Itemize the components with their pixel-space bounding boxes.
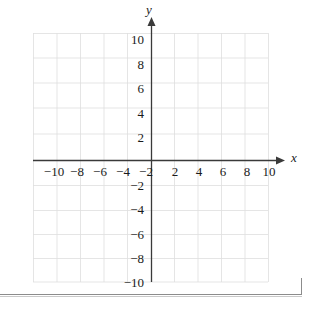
y-axis-arrowhead <box>148 17 156 26</box>
x-axis-label: x <box>291 151 297 164</box>
y-axis <box>148 17 156 282</box>
x-tick-label-4: 4 <box>189 165 209 178</box>
x-tick-label-10: 10 <box>256 165 282 178</box>
y-tick-label--2: −2 <box>104 179 144 192</box>
coordinate-grid-figure: −10 −8 −6 −4 −2 2 4 6 8 10 10 8 6 4 2 −2… <box>0 0 315 311</box>
y-tick-label--10: −10 <box>104 276 144 289</box>
y-tick-label-8: 8 <box>110 58 144 71</box>
y-axis-label: y <box>146 3 152 16</box>
grid-horizontal-lines <box>33 34 268 283</box>
x-tick-label-8: 8 <box>237 165 257 178</box>
coordinate-plane <box>0 0 315 311</box>
y-tick-label-10: 10 <box>110 33 144 46</box>
y-tick-label-4: 4 <box>110 107 144 120</box>
x-tick-label-6: 6 <box>213 165 233 178</box>
y-tick-label--6: −6 <box>104 228 144 241</box>
x-tick-label-2: 2 <box>165 165 185 178</box>
y-tick-label-2: 2 <box>110 131 144 144</box>
footer-divider <box>0 294 302 295</box>
y-tick-label--8: −8 <box>104 252 144 265</box>
y-tick-label-6: 6 <box>110 82 144 95</box>
footer-right-edge <box>301 278 302 295</box>
footer-divider-shadow <box>0 296 302 297</box>
x-tick-label--2: −2 <box>133 165 159 178</box>
y-tick-label--4: −4 <box>104 203 144 216</box>
x-axis-arrowhead <box>276 157 285 165</box>
